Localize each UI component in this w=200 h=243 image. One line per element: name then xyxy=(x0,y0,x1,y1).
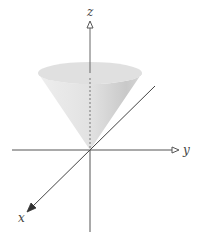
z-axis-arrow-icon xyxy=(87,21,93,28)
y-axis-arrow-icon xyxy=(172,147,179,153)
y-axis-label: y xyxy=(182,143,190,157)
cone-diagram: z y x xyxy=(0,0,200,243)
x-axis-label: x xyxy=(18,211,25,225)
y-axis xyxy=(12,147,179,153)
z-axis-label: z xyxy=(86,5,94,19)
